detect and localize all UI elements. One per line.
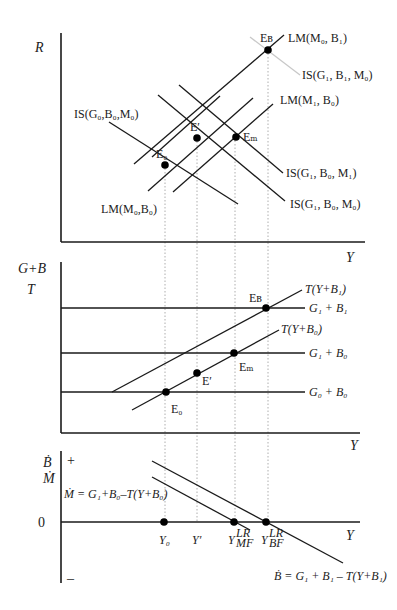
top-panel: R Y E₀ E′ Eₘ Eʙ LM(M₀, B₁) IS(G₁, B₁, M₀… [34,31,373,265]
bottom-y-axis-label-bdot: Ḃ [43,455,52,470]
bottom-panel: Ḃ Ṁ + – 0 Y Y₀ Y′ Y LR MF Y LR BF Ṁ =… [38,451,387,586]
svg-text:MF: MF [235,536,254,550]
label-g1-b0: G₁ + B₀ [309,346,347,360]
label-lm-m0-b1: LM(M₀, B₁) [288,31,347,45]
point-e0-mid [162,388,170,396]
label-lm-m0-b0: LM(M₀,B₀) [101,202,157,216]
label-e0-mid: E₀ [171,402,183,416]
label-yprime: Y′ [192,533,202,547]
point-e0-top [161,161,169,169]
label-eprime-top: E′ [190,120,200,134]
label-y-bf-lr: Y LR BF [261,526,284,550]
middle-y-axis-label-gb: G+B [18,261,47,276]
label-e0-top: E₀ [156,147,168,161]
label-lm-m1-b0: LM(M₁, B₀) [280,93,339,107]
point-eprime-mid [193,369,201,377]
label-t-y-b0: T(Y+B₀) [281,322,322,336]
point-eb-top [264,46,272,54]
label-is-g0-b0-m0: IS(G₀,B₀,M₀) [74,107,139,121]
point-ymf [230,518,238,526]
point-em-top [232,133,240,141]
point-eprime-top [193,134,201,142]
minus-sign: – [66,571,75,586]
label-eb-top: Eʙ [260,31,273,45]
svg-text:Y: Y [261,533,269,547]
m-dot-equation: Ṁ = G₁+B₀–T(Y+B₀) [63,487,167,501]
label-g1-b1: G₁ + B₁ [309,301,347,315]
label-t-y-b1: T(Y+B₁) [305,282,346,296]
point-ybf [262,518,270,526]
svg-text:BF: BF [269,536,284,550]
label-y0: Y₀ [159,533,170,547]
middle-panel: G+B T Y E₀ E′ Eₘ Eʙ T(Y+B₁) T(Y+B₀) G₁ +… [18,261,360,453]
bottom-x-axis-label: Y [346,528,356,543]
middle-y-axis-label-t: T [27,282,36,297]
label-eprime-mid: E′ [202,374,212,388]
point-y0 [160,518,168,526]
plus-sign: + [67,453,75,468]
svg-text:Y: Y [228,533,236,547]
top-x-axis-label: Y [346,250,356,265]
top-y-axis-label: R [34,40,44,55]
b-dot-equation: Ḃ = G₁ + B₁ – T(Y+B₁) [274,569,387,583]
label-em-top: Eₘ [243,130,258,144]
is-lm-budget-diagram: R Y E₀ E′ Eₘ Eʙ LM(M₀, B₁) IS(G₁, B₁, M₀… [0,0,397,610]
zero-label: 0 [38,515,45,530]
lm-m0-b0-curve [148,98,253,191]
middle-x-axis-label: Y [350,438,360,453]
dotted-guides [165,50,268,522]
label-is-g1-b0-m1: IS(G₁, B₀, M₁) [286,166,357,180]
label-is-g1-b1-m0: IS(G₁, B₁, M₀) [302,68,373,82]
label-is-g1-b0-m0: IS(G₁, B₀, M₀) [290,197,361,211]
label-em-mid: Eₘ [239,360,254,374]
label-g0-b0: G₀ + B₀ [309,385,347,399]
point-em-mid [230,349,238,357]
point-eb-mid [262,304,270,312]
label-eb-mid: Eʙ [249,291,262,305]
lm-m0-b1-curve [134,35,284,164]
bottom-y-axis-label-mdot: Ṁ [42,471,56,486]
